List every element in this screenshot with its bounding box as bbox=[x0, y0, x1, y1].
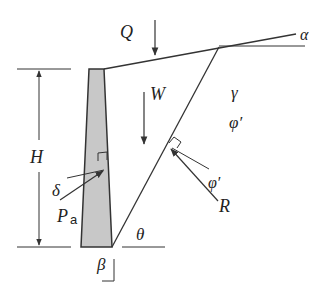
height-label: H bbox=[29, 147, 44, 167]
resultant-label: R bbox=[218, 196, 230, 216]
unit-weight-label: γ bbox=[231, 83, 239, 102]
weight-label: W bbox=[150, 84, 167, 104]
surcharge-label: Q bbox=[120, 22, 133, 42]
slope-angle-label: α bbox=[300, 26, 309, 43]
wall-back-angle-label: β bbox=[96, 255, 106, 274]
plane-friction-angle-label: φ′ bbox=[208, 174, 221, 192]
plane-normal-line bbox=[172, 148, 209, 169]
active-force-subscript: a bbox=[70, 212, 78, 227]
active-force-label: P bbox=[56, 206, 68, 226]
failure-plane-line bbox=[112, 47, 219, 247]
retaining-wall-diagram: H Q W α γ φ′ δ P a φ′ R θ β bbox=[0, 0, 329, 289]
friction-angle-label: φ′ bbox=[229, 113, 242, 132]
plane-normal-right-angle-icon bbox=[169, 137, 181, 148]
wall-friction-label: δ bbox=[52, 181, 61, 200]
failure-plane-angle-label: θ bbox=[136, 225, 144, 244]
